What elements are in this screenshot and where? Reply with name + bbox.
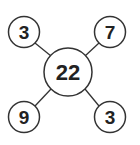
node-bottom-left-value: 9: [19, 107, 30, 128]
node-top-left: 3: [9, 17, 40, 48]
center-value: 22: [56, 60, 80, 85]
node-top-right-value: 7: [105, 22, 116, 43]
node-bottom-right-value: 3: [105, 107, 116, 128]
connector-bottom-right: [85, 89, 99, 106]
node-top-left-value: 3: [19, 22, 30, 43]
connector-top-right: [85, 43, 99, 56]
node-top-right: 7: [95, 17, 126, 48]
connector-bottom-left: [35, 89, 51, 106]
node-bottom-right: 3: [95, 102, 126, 133]
center-node: 22: [44, 48, 92, 96]
connector-top-left: [35, 43, 51, 56]
number-puzzle-diagram: 22 3 7 9 3: [0, 0, 140, 145]
node-bottom-left: 9: [9, 102, 40, 133]
